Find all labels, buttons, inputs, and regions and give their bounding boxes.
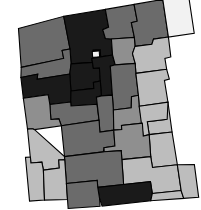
county-region <box>136 69 171 106</box>
county-region <box>66 180 100 208</box>
county-region <box>92 51 99 57</box>
county-region <box>111 37 136 65</box>
county-region <box>25 156 45 201</box>
new-mexico-county-choropleth-map <box>0 0 201 210</box>
county-region <box>149 132 177 168</box>
county-region <box>163 0 195 37</box>
map-svg-canvas <box>0 0 201 210</box>
